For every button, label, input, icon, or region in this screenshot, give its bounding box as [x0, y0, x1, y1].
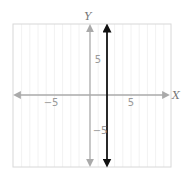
- x-tick-neg5: −5: [44, 97, 59, 108]
- x-axis-label: X: [171, 89, 181, 102]
- x-tick-5: 5: [128, 97, 134, 108]
- coordinate-plane: Y X −5 5 5 −5: [0, 0, 186, 179]
- y-axis-label: Y: [84, 10, 93, 23]
- y-tick-5: 5: [95, 54, 101, 65]
- y-tick-neg5: −5: [93, 125, 108, 136]
